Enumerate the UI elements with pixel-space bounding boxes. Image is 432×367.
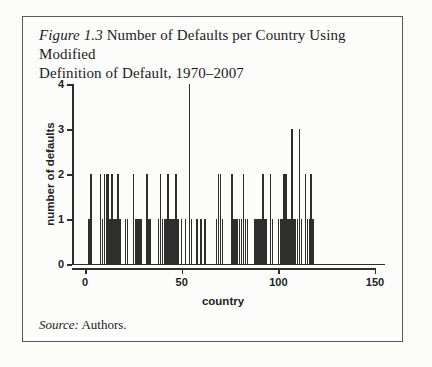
x-tick-label: 50	[168, 276, 196, 288]
y-tick	[67, 219, 72, 221]
bar	[185, 219, 187, 264]
y-tick-label: 1	[52, 213, 64, 225]
bar	[312, 219, 314, 264]
y-tick	[67, 174, 72, 176]
bar-chart: number of defaults country 0123405010015…	[23, 17, 404, 343]
bar	[181, 219, 183, 264]
bar	[119, 219, 121, 264]
source-note: Source: Authors.	[39, 317, 127, 333]
x-tick	[375, 268, 377, 274]
bar	[140, 219, 142, 264]
x-tick	[85, 268, 87, 274]
bar	[150, 219, 152, 264]
bar	[222, 219, 224, 264]
source-text: Authors.	[79, 317, 127, 332]
x-tick	[278, 268, 280, 274]
x-tick-label: 150	[361, 276, 389, 288]
bar	[191, 219, 193, 264]
y-tick	[67, 129, 72, 131]
bar	[247, 219, 249, 264]
source-prefix: Source:	[39, 317, 79, 332]
x-axis-line	[72, 268, 376, 270]
y-tick	[67, 84, 72, 86]
bar	[272, 219, 274, 264]
y-tick-label: 2	[52, 168, 64, 180]
x-tick-label: 0	[71, 276, 99, 288]
x-tick-label: 100	[264, 276, 292, 288]
bar	[301, 219, 303, 264]
bar	[90, 174, 92, 264]
bar	[196, 219, 198, 264]
x-tick	[182, 268, 184, 274]
y-tick-label: 4	[52, 78, 64, 90]
bar	[177, 219, 179, 264]
y-axis-line	[72, 84, 74, 265]
y-tick-label: 3	[52, 123, 64, 135]
bar	[266, 219, 268, 264]
bar	[204, 219, 206, 264]
figure-box: Figure 1.3 Number of Defaults per Countr…	[22, 16, 403, 342]
bar	[127, 219, 129, 264]
bar	[200, 219, 202, 264]
y-tick	[67, 264, 72, 266]
x-axis-label: country	[202, 295, 244, 307]
y-tick-label: 0	[52, 258, 64, 270]
